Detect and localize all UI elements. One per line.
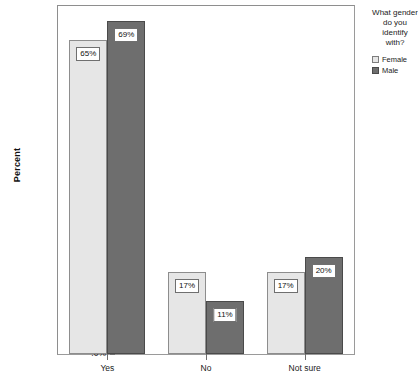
x-axis-tick-mark bbox=[305, 354, 306, 360]
legend: What gender do you identify with? Female… bbox=[372, 8, 418, 77]
y-axis-tick-mark bbox=[110, 354, 115, 355]
bar-yes-female: 65% bbox=[69, 40, 107, 354]
bar-value-label: 65% bbox=[76, 47, 100, 61]
legend-item-label: Male bbox=[382, 66, 398, 75]
x-axis-tick-mark bbox=[206, 354, 207, 360]
legend-item-label: Female bbox=[382, 55, 407, 64]
legend-swatch-icon bbox=[372, 67, 379, 74]
legend-item-male[interactable]: Male bbox=[372, 66, 418, 75]
bar-value-label: 69% bbox=[114, 28, 138, 42]
x-axis-tick-label: Not sure bbox=[255, 363, 355, 373]
bar-chart: Percent .0%20.0%40.0%60.0%65%69%Yes17%11… bbox=[0, 0, 418, 381]
bar-value-label: 17% bbox=[175, 279, 199, 293]
x-axis-tick-label: No bbox=[156, 363, 256, 373]
x-axis-tick-label: Yes bbox=[57, 363, 157, 373]
bar-value-label: 20% bbox=[312, 264, 336, 278]
x-axis-tick-mark bbox=[107, 354, 108, 360]
legend-item-female[interactable]: Female bbox=[372, 55, 418, 64]
bar-not-sure-male: 20% bbox=[305, 257, 343, 354]
bar-value-label: 17% bbox=[274, 279, 298, 293]
bar-no-male: 11% bbox=[206, 301, 244, 354]
bar-not-sure-female: 17% bbox=[267, 272, 305, 354]
plot-inner: .0%20.0%40.0%60.0%65%69%Yes17%11%No17%20… bbox=[58, 6, 354, 354]
y-axis-title: Percent bbox=[12, 130, 22, 200]
legend-swatch-icon bbox=[372, 56, 379, 63]
legend-items: FemaleMale bbox=[372, 55, 418, 75]
bar-no-female: 17% bbox=[168, 272, 206, 354]
legend-title: What gender do you identify with? bbox=[372, 8, 418, 48]
bar-yes-male: 69% bbox=[107, 21, 145, 355]
bar-value-label: 11% bbox=[213, 308, 236, 322]
plot-area: .0%20.0%40.0%60.0%65%69%Yes17%11%No17%20… bbox=[57, 5, 355, 355]
